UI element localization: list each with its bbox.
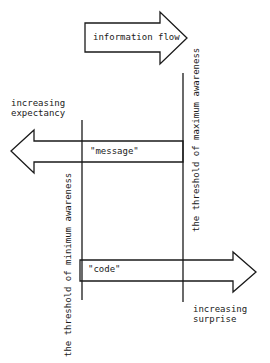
increasing-surprise-label-line2: surprise (193, 314, 236, 325)
message-label: "message" (90, 146, 139, 157)
max-threshold-label: the threshold of maximum awareness (191, 48, 201, 232)
increasing-expectancy-label-line2: expectancy (11, 108, 65, 119)
min-threshold-label: the threshold of minimum awareness (63, 173, 73, 357)
information-flow-label: information flow (93, 32, 180, 43)
code-label: "code" (88, 264, 121, 275)
